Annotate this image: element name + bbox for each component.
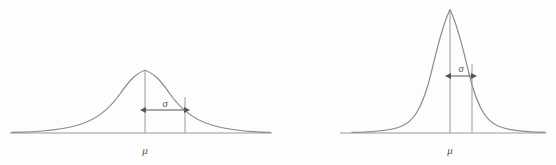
normal-distribution-figure: σ μ σ μ (0, 0, 556, 165)
right-mean-label: μ (446, 144, 453, 156)
right-normal-curve (352, 10, 545, 133)
distributions-canvas: σ μ σ μ (0, 0, 556, 165)
left-normal-curve (12, 70, 270, 132)
left-mean-label: μ (141, 144, 148, 156)
left-sigma-label: σ (162, 98, 168, 109)
right-sigma-label: σ (458, 63, 464, 74)
left-distribution-group: σ μ (10, 70, 272, 156)
right-distribution-group: σ μ (340, 10, 546, 157)
